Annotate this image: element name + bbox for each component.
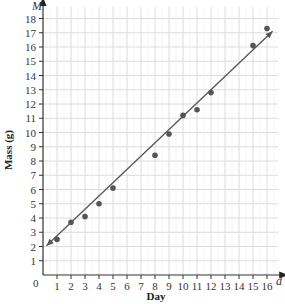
- data-point: [96, 201, 102, 207]
- y-tick-label: 4: [31, 212, 37, 224]
- y-tick-label: 18: [25, 13, 37, 25]
- data-point: [264, 26, 270, 32]
- data-point: [166, 131, 172, 137]
- x-tick-label: 5: [110, 280, 116, 292]
- y-tick-label: 2: [31, 241, 37, 253]
- x-tick-label: 10: [178, 280, 190, 292]
- y-tick-label: 14: [25, 70, 37, 82]
- tick-labels: 1234567891011121314151612345678910111213…: [25, 13, 273, 293]
- origin-label: 0: [33, 277, 39, 289]
- y-tick-label: 15: [25, 55, 37, 67]
- scatter-chart: 1234567891011121314151612345678910111213…: [0, 0, 285, 304]
- data-point: [180, 113, 186, 119]
- y-axis-title: Mass (g): [2, 130, 15, 170]
- data-point: [54, 237, 60, 243]
- x-axis-variable: d: [276, 274, 283, 288]
- y-tick-label: 1: [31, 255, 37, 267]
- y-tick-label: 5: [31, 198, 37, 210]
- x-tick-label: 9: [166, 280, 172, 292]
- x-tick-label: 14: [234, 280, 246, 292]
- data-point: [152, 153, 158, 159]
- data-point: [82, 214, 88, 220]
- x-axis-title: Day: [147, 290, 166, 302]
- x-tick-label: 11: [192, 280, 203, 292]
- x-tick-label: 4: [96, 280, 102, 292]
- y-axis-variable: M: [31, 0, 43, 13]
- y-tick-label: 13: [25, 84, 37, 96]
- y-tick-label: 9: [31, 141, 37, 153]
- data-point: [110, 185, 116, 191]
- y-tick-label: 17: [25, 27, 37, 39]
- y-tick-label: 11: [25, 112, 36, 124]
- data-point: [250, 43, 256, 49]
- x-tick-label: 7: [138, 280, 144, 292]
- data-point: [208, 90, 214, 96]
- y-tick-label: 3: [31, 226, 37, 238]
- data-point: [68, 219, 74, 225]
- x-tick-label: 2: [68, 280, 74, 292]
- y-tick-label: 6: [31, 184, 37, 196]
- x-tick-label: 12: [206, 280, 217, 292]
- grid-lines: [43, 7, 278, 275]
- y-tick-label: 10: [25, 127, 37, 139]
- data-point: [194, 107, 200, 113]
- x-tick-label: 1: [54, 280, 60, 292]
- y-tick-label: 7: [31, 169, 37, 181]
- x-tick-label: 15: [248, 280, 260, 292]
- y-tick-label: 8: [31, 155, 37, 167]
- x-tick-label: 13: [220, 280, 232, 292]
- x-tick-label: 16: [262, 280, 274, 292]
- y-tick-label: 12: [25, 98, 36, 110]
- x-tick-label: 3: [82, 280, 88, 292]
- y-tick-label: 16: [25, 41, 37, 53]
- x-tick-label: 6: [124, 280, 130, 292]
